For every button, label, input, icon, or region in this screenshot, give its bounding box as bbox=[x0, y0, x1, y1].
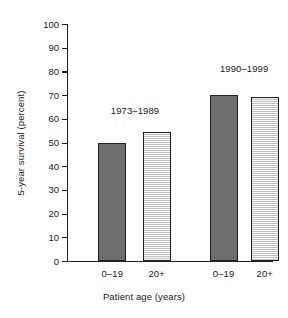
y-axis-tick-label: 90 bbox=[48, 43, 59, 53]
plot-area: 1009080706050403020100 0–1920+0–1920+ 19… bbox=[67, 24, 273, 261]
bar bbox=[98, 143, 126, 262]
y-axis-tick-label: 70 bbox=[48, 91, 59, 101]
bar bbox=[251, 97, 279, 261]
y-axis-tick-label: 30 bbox=[48, 185, 59, 195]
y-axis-tick-label: 0 bbox=[54, 257, 59, 267]
y-axis-tick-mark: 20 bbox=[62, 214, 67, 215]
y-axis-tick-mark: 90 bbox=[62, 48, 67, 49]
x-axis-tick-label: 0–19 bbox=[102, 268, 124, 279]
bar bbox=[143, 132, 171, 261]
y-axis-tick-mark: 0 bbox=[62, 261, 67, 262]
y-axis-tick-label: 20 bbox=[48, 209, 59, 219]
x-axis-tick-label: 0–19 bbox=[213, 268, 235, 279]
y-axis-line bbox=[67, 24, 68, 261]
bar bbox=[210, 95, 238, 261]
y-axis-title: 5-year survival (percent) bbox=[14, 24, 28, 262]
y-axis-tick-label: 60 bbox=[48, 114, 59, 124]
y-axis-tick-mark: 60 bbox=[62, 119, 67, 120]
y-axis-tick-label: 80 bbox=[48, 67, 59, 77]
y-axis-tick-label: 100 bbox=[43, 20, 59, 30]
y-axis-tick-label: 40 bbox=[48, 162, 59, 172]
x-axis-title: Patient age (years) bbox=[0, 291, 288, 303]
y-axis-tick-label: 10 bbox=[48, 233, 59, 243]
x-axis-tick-label: 20+ bbox=[257, 268, 273, 279]
bar-chart-figure: 5-year survival (percent) 10090807060504… bbox=[0, 0, 288, 318]
y-axis-tick-mark: 70 bbox=[62, 95, 67, 96]
group-annotation-label: 1973–1989 bbox=[111, 105, 159, 116]
y-axis-tick-mark: 50 bbox=[62, 143, 67, 144]
x-axis-line bbox=[62, 261, 273, 262]
y-axis-tick-mark: 100 bbox=[62, 24, 67, 25]
x-axis-tick-label: 20+ bbox=[148, 268, 164, 279]
group-annotation-label: 1990–1999 bbox=[220, 63, 268, 74]
y-axis-tick-mark: 80 bbox=[62, 71, 67, 72]
y-axis-tick-label: 50 bbox=[48, 138, 59, 148]
y-axis-tick-mark: 40 bbox=[62, 166, 67, 167]
y-axis-tick-mark: 30 bbox=[62, 190, 67, 191]
y-axis-tick-mark: 10 bbox=[62, 237, 67, 238]
